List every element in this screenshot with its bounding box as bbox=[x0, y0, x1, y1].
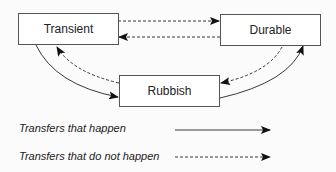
edge-rubbish-to-transient bbox=[57, 47, 119, 83]
edge-rubbish-to-durable bbox=[220, 46, 303, 98]
legend-happen-label: Transfers that happen bbox=[19, 122, 126, 134]
edge-transient-to-rubbish bbox=[36, 45, 118, 97]
node-transient-label: Transient bbox=[44, 22, 94, 36]
node-transient: Transient bbox=[18, 13, 119, 45]
node-rubbish-label: Rubbish bbox=[147, 84, 191, 98]
node-durable-label: Durable bbox=[249, 23, 291, 37]
node-rubbish: Rubbish bbox=[119, 75, 220, 107]
node-durable: Durable bbox=[220, 14, 321, 46]
edge-durable-to-rubbish bbox=[221, 47, 282, 83]
legend-not-happen-label: Transfers that do not happen bbox=[19, 150, 159, 162]
